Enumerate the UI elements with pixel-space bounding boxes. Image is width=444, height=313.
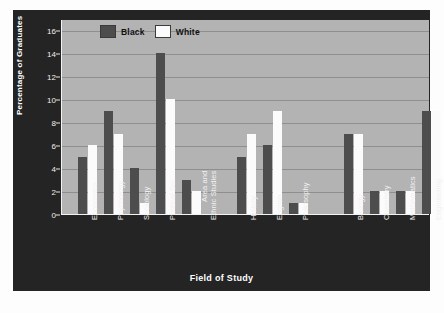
bar-black [104, 111, 113, 214]
legend-item[interactable]: White [155, 25, 200, 38]
y-axis-tick-mark [56, 77, 60, 78]
x-axis-tick-label: History [250, 196, 259, 220]
x-axis-tick-label: Mathematics [409, 176, 418, 220]
y-axis-tick-mark [56, 31, 60, 32]
x-axis-tick-label: Philosophy [302, 182, 311, 220]
x-axis-tick-label-line: Ethnic Studies [210, 171, 219, 220]
legend-item[interactable]: Black [100, 25, 145, 38]
x-axis-title: Field of Study [13, 273, 430, 283]
x-axis-tick-label: Sociology [143, 187, 152, 220]
chart-panel: Percentage of Graduates 0246810121416 Bl… [13, 10, 430, 291]
y-axis-tick-label: 16 [47, 27, 56, 36]
y-axis-tick-label: 14 [47, 50, 56, 59]
bar-black [156, 53, 165, 214]
y-axis-tick-mark [56, 169, 60, 170]
x-axis-tick-label: Political Sci. [169, 178, 178, 220]
y-axis-tick-mark [56, 123, 60, 124]
x-axis-tick-label: Engineering [435, 179, 444, 220]
bar-black [344, 134, 353, 214]
y-axis-tick-mark [56, 192, 60, 193]
legend-swatch-white [155, 25, 171, 38]
bar-black [130, 168, 139, 214]
bar-black [396, 191, 405, 214]
bar-black [182, 180, 191, 214]
x-axis-tick-label: Psychology [117, 181, 126, 220]
legend-swatch-black [100, 25, 116, 38]
bar-black [289, 203, 298, 214]
x-axis-tick-label: Economics [91, 182, 100, 220]
legend-label: Black [121, 27, 145, 37]
bar-black [422, 111, 431, 214]
bar-black [78, 157, 87, 214]
y-axis-tick-label: 12 [47, 73, 56, 82]
chart-legend: BlackWhite [100, 25, 200, 38]
y-axis-tick-mark [56, 215, 60, 216]
x-axis-tick-label: Biology [357, 195, 366, 220]
y-axis-title: Percentage of Graduates [15, 16, 24, 115]
x-axis-tick-label: English [276, 195, 285, 220]
legend-label: White [176, 27, 200, 37]
y-axis-tick-mark [56, 100, 60, 101]
y-axis-tick-label: 10 [47, 96, 56, 105]
x-axis-tick-label: Chemistry [383, 185, 392, 220]
bar-black [263, 145, 272, 214]
y-axis-tick-mark [56, 54, 60, 55]
bar-black [237, 157, 246, 214]
x-axis-tick-label: Area andEthnic Studies [201, 171, 218, 220]
y-axis-tick-mark [56, 146, 60, 147]
bar-black [370, 191, 379, 214]
chart-figure: Percentage of Graduates 0246810121416 Bl… [0, 0, 444, 313]
